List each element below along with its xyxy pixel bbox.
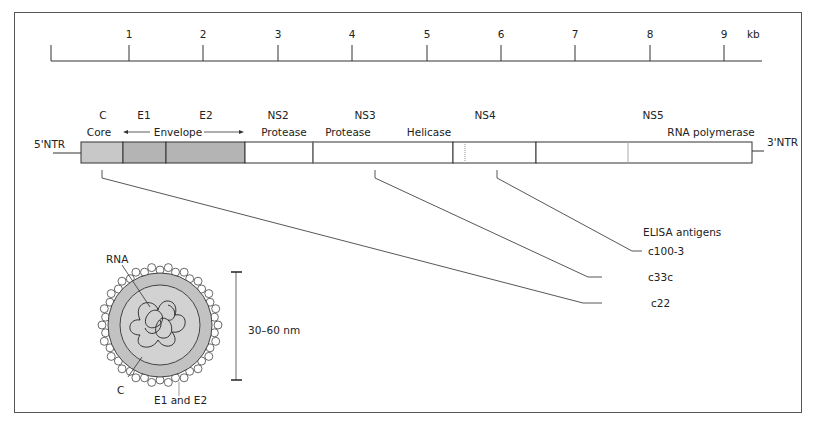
envelope-proteins-label: E1 and E2 xyxy=(154,394,207,406)
tick-label-2: 2 xyxy=(200,28,207,40)
region-function-ns2: Protease xyxy=(261,126,307,138)
elisa-title: ELISA antigens xyxy=(643,226,721,238)
tick-label-6: 6 xyxy=(498,28,505,40)
segment-ns2 xyxy=(245,142,313,163)
rna-label: RNA xyxy=(106,253,129,265)
segment-e1 xyxy=(123,142,166,163)
tick-label-3: 3 xyxy=(275,28,282,40)
envelope-label: Envelope xyxy=(154,126,202,138)
tick-label-8: 8 xyxy=(647,28,654,40)
elisa-antigen-c100-3: c100-3 xyxy=(648,245,684,257)
region-name-ns5: NS5 xyxy=(642,109,663,121)
tick-label-4: 4 xyxy=(349,28,356,40)
elisa-antigen-c33c: c33c xyxy=(648,271,673,283)
core-label: C xyxy=(117,384,124,396)
scale-unit: kb xyxy=(747,28,760,40)
size-bar: 30–60 nm xyxy=(231,272,300,380)
hcv-genome-diagram: 1 2 3 4 5 6 7 8 9 kb C E1 E2 NS2 NS3 NS4… xyxy=(0,0,824,436)
leader-c100-3 xyxy=(497,170,642,251)
segment-e2 xyxy=(166,142,245,163)
tick-label-1: 1 xyxy=(126,28,133,40)
segment-core xyxy=(81,142,123,163)
virion-illustration: RNA C E1 and E2 xyxy=(98,253,222,406)
region-name-ns4: NS4 xyxy=(474,109,496,121)
arrowhead-right-icon xyxy=(239,130,244,134)
tick-label-5: 5 xyxy=(424,28,431,40)
elisa-antigen-c22: c22 xyxy=(651,297,670,309)
region-function-core: Core xyxy=(87,126,111,138)
arrowhead-left-icon xyxy=(123,130,128,134)
tick-label-9: 9 xyxy=(721,28,728,40)
three-prime-ntr-label: 3'NTR xyxy=(767,136,798,148)
region-function-ns3-protease: Protease xyxy=(325,126,371,138)
size-label: 30–60 nm xyxy=(248,324,300,336)
region-name-c: C xyxy=(99,109,106,121)
five-prime-ntr-label: 5'NTR xyxy=(34,138,65,150)
leader-c33c xyxy=(375,170,602,277)
segment-ns5 xyxy=(536,142,752,163)
segment-ns3 xyxy=(313,142,453,163)
region-name-e2: E2 xyxy=(199,109,212,121)
region-name-ns2: NS2 xyxy=(267,109,288,121)
region-function-ns5: RNA polymerase xyxy=(667,126,754,138)
genome-bar: 5'NTR 3'NTR xyxy=(34,136,798,163)
kb-scale: 1 2 3 4 5 6 7 8 9 kb xyxy=(51,28,762,61)
region-name-e1: E1 xyxy=(137,109,150,121)
tick-label-7: 7 xyxy=(572,28,579,40)
region-labels: C E1 E2 NS2 NS3 NS4 NS5 Core Envelope Pr… xyxy=(87,109,755,138)
region-function-ns3-helicase: Helicase xyxy=(407,126,451,138)
region-name-ns3: NS3 xyxy=(354,109,375,121)
